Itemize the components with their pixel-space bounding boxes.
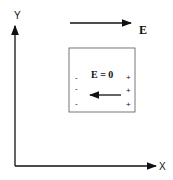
y-axis-label: Y	[14, 10, 21, 21]
diagram-canvas: Y X E E = 0 - - - + + +	[0, 0, 173, 180]
positive-charge: +	[126, 73, 131, 82]
interior-field-label: E = 0	[91, 69, 113, 80]
negative-charge: -	[75, 84, 78, 93]
positive-charge: +	[126, 86, 131, 95]
positive-charge: +	[126, 100, 131, 109]
negative-charge: -	[75, 73, 78, 82]
diagram-svg: Y X E E = 0 - - - + + +	[0, 0, 173, 180]
negative-charge: -	[75, 99, 78, 108]
external-field-label: E	[139, 23, 147, 37]
x-axis-label: X	[159, 161, 166, 172]
